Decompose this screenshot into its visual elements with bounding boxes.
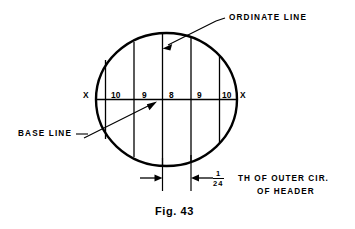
ordinate-value-4: 9 (197, 91, 202, 99)
figure-caption: Fig. 43 (155, 206, 194, 217)
fraction-numerator: 1 (215, 170, 221, 178)
fraction-denominator: 24 (212, 179, 224, 187)
base-line-leader-arrowhead (147, 102, 157, 111)
dimension-fraction: 1 24 (212, 170, 224, 188)
dimension-arrow-left-head (155, 175, 163, 182)
figure-43-container: ORDINATE LINE BASE LINE X X 10 9 8 9 10 … (0, 0, 355, 229)
dimension-note-line1: TH OF OUTER CIR. (238, 175, 329, 183)
ordinate-value-5: 10 (222, 91, 232, 99)
dimension-note-line2: OF HEADER (257, 188, 315, 196)
dimension-arrow-right-head (191, 175, 199, 182)
ordinate-line-label: ORDINATE LINE (229, 14, 307, 22)
ordinate-label-tick (216, 18, 225, 21)
ordinate-value-3: 8 (169, 91, 174, 99)
ordinate-value-1: 10 (111, 91, 121, 99)
ordinate-value-2: 9 (142, 91, 147, 99)
axis-letter-left: X (83, 91, 89, 99)
ordinate-leader-arrowhead (163, 44, 173, 51)
base-line-label: BASE LINE (18, 130, 72, 138)
base-line-leader (84, 105, 150, 138)
axis-letter-right: X (240, 91, 246, 99)
